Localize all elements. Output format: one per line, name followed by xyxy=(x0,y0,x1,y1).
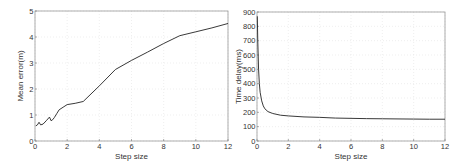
y-tick-label: 200 xyxy=(243,108,256,117)
mean-error-plot: 024681012012345Step sizeMean error(m) xyxy=(0,0,235,166)
y-tick-label: 4 xyxy=(29,33,33,42)
x-tick-label: 12 xyxy=(441,142,449,151)
x-tick-label: 4 xyxy=(97,142,101,151)
x-tick-label: 2 xyxy=(65,142,69,151)
x-tick-label: 0 xyxy=(33,142,37,151)
y-tick-label: 700 xyxy=(243,36,256,45)
plot-frame xyxy=(35,11,228,141)
data-line xyxy=(257,16,445,119)
time-delay-plot: 0246810120100200300400500600700800900Ste… xyxy=(235,0,470,166)
y-tick-label: 400 xyxy=(243,79,256,88)
x-tick-label: 8 xyxy=(162,142,166,151)
x-tick-label: 8 xyxy=(380,142,384,151)
y-tick-label: 0 xyxy=(251,137,255,146)
plot-frame xyxy=(257,12,445,141)
y-tick-label: 5 xyxy=(29,7,33,16)
y-tick-label: 900 xyxy=(243,8,256,17)
x-tick-label: 6 xyxy=(129,142,133,151)
time-delay-chart: 0246810120100200300400500600700800900Ste… xyxy=(235,0,470,166)
x-tick-label: 4 xyxy=(318,142,322,151)
y-tick-label: 2 xyxy=(29,85,33,94)
x-axis-label: Step size xyxy=(115,152,148,161)
y-tick-label: 300 xyxy=(243,94,256,103)
data-line xyxy=(36,23,228,125)
y-tick-label: 1 xyxy=(29,111,33,120)
y-tick-label: 0 xyxy=(29,137,33,146)
y-tick-label: 600 xyxy=(243,51,256,60)
y-tick-label: 100 xyxy=(243,122,256,131)
x-tick-label: 12 xyxy=(224,142,232,151)
x-tick-label: 0 xyxy=(255,142,259,151)
y-axis-label: Time delay(ms) xyxy=(235,49,243,104)
y-tick-label: 500 xyxy=(243,65,256,74)
mean-error-chart: 024681012012345Step sizeMean error(m) xyxy=(0,0,235,166)
x-axis-label: Step size xyxy=(335,152,368,161)
y-tick-label: 800 xyxy=(243,22,256,31)
y-axis-label: Mean error(m) xyxy=(16,50,25,101)
y-tick-label: 3 xyxy=(29,59,33,68)
x-tick-label: 2 xyxy=(286,142,290,151)
x-tick-label: 10 xyxy=(192,142,200,151)
x-tick-label: 6 xyxy=(349,142,353,151)
x-tick-label: 10 xyxy=(409,142,417,151)
